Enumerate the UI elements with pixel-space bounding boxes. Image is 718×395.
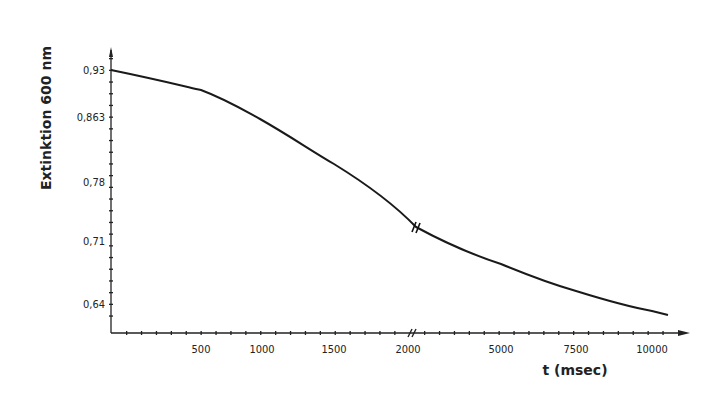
y-axis-arrow-icon xyxy=(109,47,113,57)
x-axis-title: t (msec) xyxy=(542,362,607,378)
y-tick-label: 0,64 xyxy=(83,298,105,311)
y-tick-label: 0,78 xyxy=(83,176,105,189)
x-tick-label: 5000 xyxy=(488,343,513,356)
x-tick-label: 7500 xyxy=(563,343,588,356)
x-tick-label: 1500 xyxy=(321,343,346,356)
x-tick-label: 10000 xyxy=(636,343,667,356)
y-tick-label: 0,93 xyxy=(83,64,105,77)
x-tick-label: 1000 xyxy=(249,343,274,356)
y-axis-title: Extinktion 600 nm xyxy=(38,46,54,190)
y-tick-label: 0,71 xyxy=(83,235,105,248)
x-tick-label: 500 xyxy=(192,343,211,356)
data-curve xyxy=(111,70,668,315)
y-tick-label: 0,863 xyxy=(77,111,105,124)
x-axis-arrow-icon xyxy=(678,330,690,336)
x-tick-label: 2000 xyxy=(395,343,420,356)
chart: 0,93 0,863 0,78 0,71 0,64 500 1000 1500 … xyxy=(0,0,718,395)
